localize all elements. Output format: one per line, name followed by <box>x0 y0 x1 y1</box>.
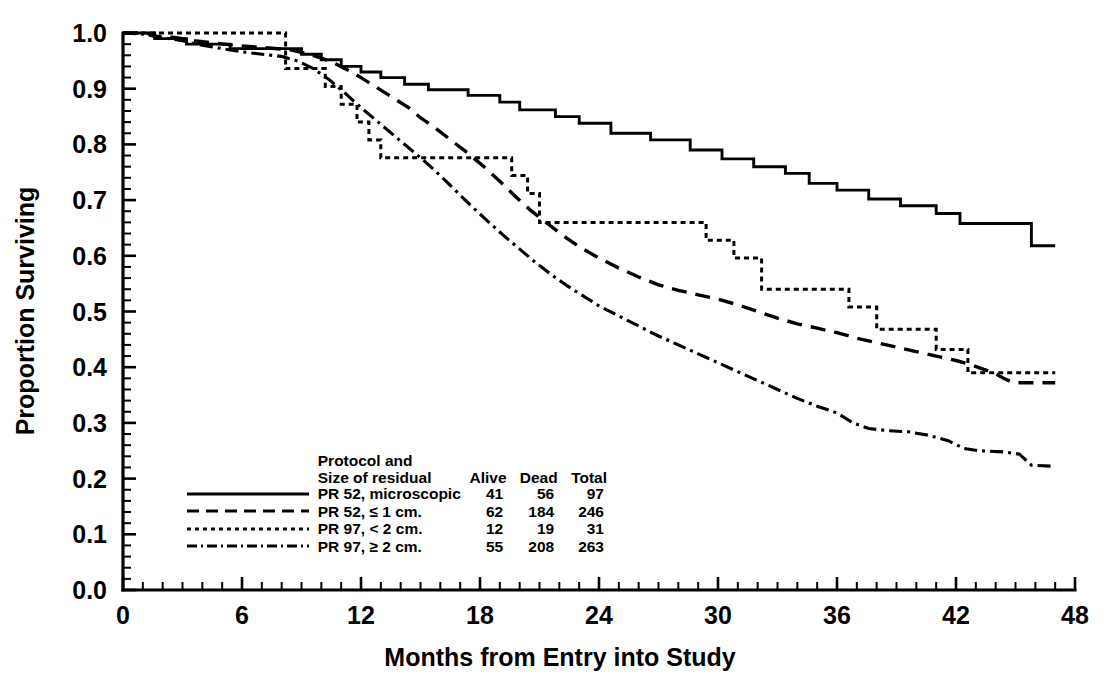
legend-total-value: 263 <box>566 538 616 556</box>
y-axis-title: Proportion Surviving <box>11 187 39 436</box>
y-tick-label: 1.0 <box>72 19 107 47</box>
x-tick-label: 6 <box>235 601 249 629</box>
y-tick-label: 0.7 <box>72 186 107 214</box>
survival-curve-dashdot <box>123 33 1055 466</box>
legend-total-value: 97 <box>566 485 616 503</box>
legend-total-value: 31 <box>566 520 616 538</box>
y-tick-label: 0.3 <box>72 409 107 437</box>
legend-header-row-1: Protocol and <box>186 452 616 469</box>
legend-dead-value: 184 <box>515 503 566 521</box>
y-tick-label: 0.8 <box>72 130 107 158</box>
legend-col-dead: Dead <box>515 469 566 486</box>
legend-col-alive: Alive <box>465 469 515 486</box>
legend-blank-alive <box>465 452 515 469</box>
legend-row: PR 97, ≥ 2 cm. 55 208 263 <box>186 538 616 556</box>
legend-line-sample-solid <box>186 485 312 503</box>
legend-dead-value: 56 <box>515 485 566 503</box>
legend-title-line2: Size of residual <box>312 469 465 486</box>
x-tick-label: 42 <box>942 601 970 629</box>
legend-blank-total <box>566 452 616 469</box>
legend-dead-value: 19 <box>515 520 566 538</box>
legend-line-sample-dashdot <box>186 538 312 556</box>
survival-chart: 06121824303642481.00.90.80.70.60.50.40.3… <box>0 0 1107 696</box>
legend-alive-value: 62 <box>465 503 515 521</box>
x-tick-label: 12 <box>347 601 375 629</box>
survival-curve-dotted <box>123 33 1055 373</box>
legend-alive-value: 41 <box>465 485 515 503</box>
x-tick-label: 48 <box>1061 601 1089 629</box>
kaplan-meier-figure: 06121824303642481.00.90.80.70.60.50.40.3… <box>0 0 1107 696</box>
survival-curves <box>123 33 1055 466</box>
chart-legend: Protocol and Size of residual Alive Dead… <box>186 452 616 555</box>
legend-table: Protocol and Size of residual Alive Dead… <box>186 452 616 555</box>
legend-sample-blank <box>186 452 312 469</box>
legend-col-total: Total <box>566 469 616 486</box>
x-axis-title: Months from Entry into Study <box>384 643 735 671</box>
legend-line-sample-dotted <box>186 520 312 538</box>
legend-row: PR 52, microscopic 41 56 97 <box>186 485 616 503</box>
legend-row: PR 52, ≤ 1 cm. 62 184 246 <box>186 503 616 521</box>
survival-curve-solid <box>123 33 1055 246</box>
x-tick-label: 30 <box>704 601 732 629</box>
x-tick-label: 18 <box>466 601 494 629</box>
survival-curve-dashed <box>123 33 1055 383</box>
legend-title-line1: Protocol and <box>312 452 465 469</box>
x-tick-label: 36 <box>823 601 851 629</box>
legend-dead-value: 208 <box>515 538 566 556</box>
legend-label: PR 97, < 2 cm. <box>312 520 465 538</box>
legend-alive-value: 55 <box>465 538 515 556</box>
y-tick-label: 0.9 <box>72 75 107 103</box>
legend-alive-value: 12 <box>465 520 515 538</box>
x-tick-label: 0 <box>116 601 130 629</box>
y-tick-label: 0.4 <box>72 353 107 381</box>
y-tick-label: 0.6 <box>72 242 107 270</box>
y-tick-label: 0.2 <box>72 465 107 493</box>
legend-header-row-2: Size of residual Alive Dead Total <box>186 469 616 486</box>
y-tick-label: 0.1 <box>72 520 107 548</box>
legend-label: PR 52, microscopic <box>312 485 465 503</box>
legend-sample-blank-2 <box>186 469 312 486</box>
legend-label: PR 52, ≤ 1 cm. <box>312 503 465 521</box>
legend-row: PR 97, < 2 cm. 12 19 31 <box>186 520 616 538</box>
legend-total-value: 246 <box>566 503 616 521</box>
y-tick-label: 0.0 <box>72 576 107 604</box>
legend-label: PR 97, ≥ 2 cm. <box>312 538 465 556</box>
x-tick-label: 24 <box>585 601 613 629</box>
legend-line-sample-dashed <box>186 503 312 521</box>
legend-blank-dead <box>515 452 566 469</box>
y-tick-label: 0.5 <box>72 298 107 326</box>
